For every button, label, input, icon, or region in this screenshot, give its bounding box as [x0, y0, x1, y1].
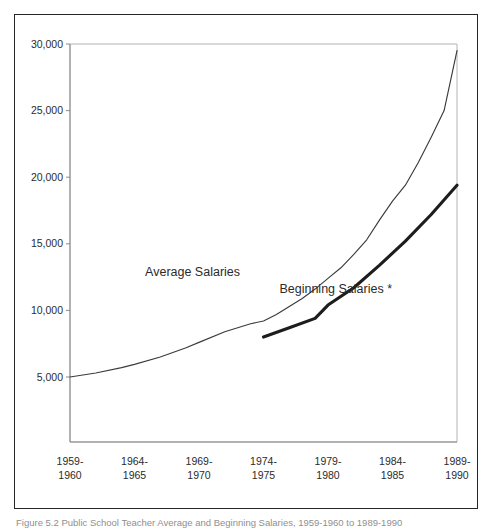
x-tick-label-bottom: 1965	[123, 469, 147, 481]
y-tick-label: 10,000	[31, 304, 63, 316]
x-tick-label-bottom: 1975	[252, 469, 276, 481]
x-tick-label-top: 1984-	[379, 455, 406, 467]
x-tick-label-bottom: 1985	[381, 469, 405, 481]
x-tick-label-top: 1974-	[250, 455, 277, 467]
x-tick-label-bottom: 1970	[187, 469, 211, 481]
x-tick-label-top: 1964-	[121, 455, 148, 467]
y-tick-label: 30,000	[31, 38, 63, 50]
x-tick-label-bottom: 1960	[58, 469, 82, 481]
series-line-beginning-salaries	[264, 185, 458, 337]
figure-root: 30,00025,00020,00015,00010,0005,0001959-…	[0, 0, 493, 530]
y-tick-label: 25,000	[31, 104, 63, 116]
plot-area-border	[70, 44, 457, 442]
series-annotation-label: Beginning Salaries *	[279, 282, 392, 296]
y-tick-label: 5,000	[37, 371, 63, 383]
x-tick-label-top: 1979-	[315, 455, 342, 467]
salaries-line-chart: 30,00025,00020,00015,00010,0005,0001959-…	[0, 0, 493, 530]
y-tick-label: 15,000	[31, 237, 63, 249]
x-tick-label-top: 1969-	[186, 455, 213, 467]
x-tick-label-top: 1989-	[444, 455, 471, 467]
y-tick-label: 20,000	[31, 171, 63, 183]
series-annotation-label: Average Salaries	[145, 265, 240, 279]
x-tick-label-bottom: 1990	[445, 469, 469, 481]
series-line-average-salaries	[70, 51, 457, 377]
figure-caption: Figure 5.2 Public School Teacher Average…	[16, 517, 486, 529]
x-tick-label-bottom: 1980	[316, 469, 340, 481]
x-tick-label-top: 1959-	[57, 455, 84, 467]
